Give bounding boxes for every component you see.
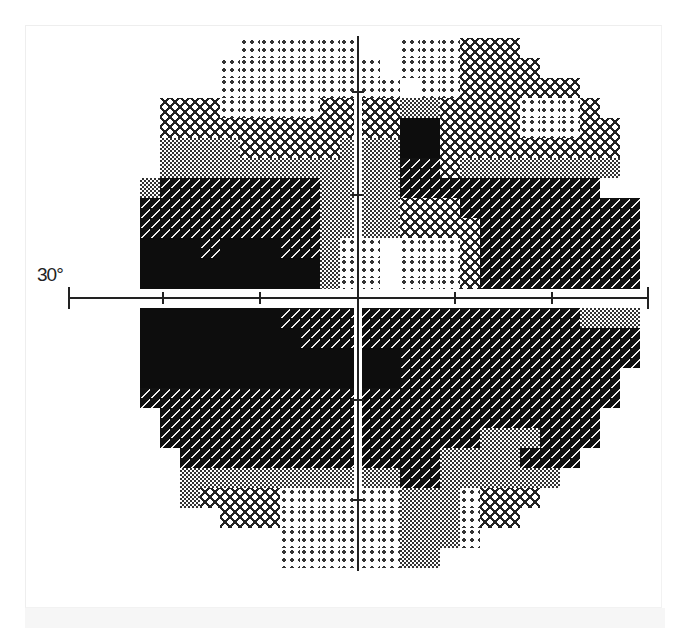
field-cell	[260, 198, 280, 218]
field-cell	[500, 158, 520, 178]
field-cell	[500, 198, 520, 218]
field-cell	[180, 218, 200, 238]
field-cell	[560, 368, 580, 388]
field-cell	[600, 368, 620, 388]
field-cell	[400, 238, 420, 258]
field-cell	[560, 218, 580, 238]
field-cell	[260, 138, 280, 158]
field-cell	[280, 368, 300, 388]
field-cell	[420, 368, 440, 388]
field-cell	[480, 218, 500, 238]
field-cell	[280, 388, 300, 408]
field-cell	[320, 388, 340, 408]
field-cell	[220, 58, 240, 78]
field-cell	[400, 218, 420, 238]
field-cell	[480, 328, 500, 348]
field-cell	[360, 428, 380, 448]
field-cell	[400, 368, 420, 388]
field-cell	[520, 308, 540, 328]
field-cell	[280, 78, 300, 98]
field-cell	[560, 448, 580, 468]
field-cell	[240, 428, 260, 448]
field-cell	[360, 58, 380, 78]
field-cell	[160, 258, 180, 278]
field-cell	[580, 98, 600, 118]
field-cell	[420, 388, 440, 408]
field-cell	[600, 388, 620, 408]
field-cell	[160, 178, 180, 198]
field-cell	[260, 238, 280, 258]
field-cell	[220, 218, 240, 238]
field-cell	[240, 78, 260, 98]
field-cell	[280, 158, 300, 178]
field-cell	[380, 308, 400, 328]
field-cell	[460, 408, 480, 428]
field-cell	[520, 218, 540, 238]
field-cell	[520, 178, 540, 198]
field-cell	[320, 448, 340, 468]
field-cell	[500, 448, 520, 468]
field-cell	[460, 508, 480, 528]
field-cell	[500, 138, 520, 158]
field-cell	[420, 178, 440, 198]
field-cell	[400, 308, 420, 328]
field-cell	[300, 408, 320, 428]
field-cell	[620, 348, 640, 368]
field-cell	[220, 448, 240, 468]
field-cell	[460, 178, 480, 198]
field-cell	[360, 198, 380, 218]
field-cell	[420, 348, 440, 368]
field-cell	[420, 198, 440, 218]
field-cell	[320, 118, 340, 138]
field-cell	[540, 98, 560, 118]
field-cell	[480, 118, 500, 138]
field-cell	[400, 118, 420, 138]
field-cell	[220, 388, 240, 408]
field-cell	[540, 308, 560, 328]
field-cell	[320, 368, 340, 388]
field-cell	[200, 218, 220, 238]
field-cell	[300, 368, 320, 388]
field-cell	[200, 388, 220, 408]
field-cell	[200, 328, 220, 348]
field-cell	[280, 178, 300, 198]
field-cell	[380, 348, 400, 368]
field-cell	[260, 388, 280, 408]
field-cell	[360, 528, 380, 548]
field-cell	[620, 218, 640, 238]
field-cell	[560, 258, 580, 278]
field-cell	[140, 238, 160, 258]
field-cell	[160, 308, 180, 328]
field-cell	[300, 138, 320, 158]
field-cell	[500, 218, 520, 238]
field-cell	[320, 348, 340, 368]
field-cell	[160, 158, 180, 178]
field-cell	[200, 448, 220, 468]
field-cell	[260, 98, 280, 118]
field-cell	[540, 178, 560, 198]
field-cell	[160, 238, 180, 258]
field-cell	[440, 408, 460, 428]
field-cell	[140, 178, 160, 198]
field-cell	[200, 198, 220, 218]
field-cell	[260, 368, 280, 388]
field-cell	[520, 388, 540, 408]
field-cell	[500, 428, 520, 448]
field-cell	[380, 508, 400, 528]
field-cell	[520, 488, 540, 508]
field-cell	[400, 508, 420, 528]
field-cell	[540, 468, 560, 488]
field-cell	[260, 38, 280, 58]
field-cell	[420, 238, 440, 258]
field-cell	[540, 78, 560, 98]
field-cell	[580, 388, 600, 408]
field-cell	[480, 58, 500, 78]
field-cell	[460, 218, 480, 238]
field-cell	[460, 448, 480, 468]
field-cell	[560, 98, 580, 118]
field-cell	[360, 308, 380, 328]
field-cell	[140, 308, 160, 328]
field-cell	[460, 78, 480, 98]
field-cell	[520, 328, 540, 348]
field-cell	[320, 98, 340, 118]
